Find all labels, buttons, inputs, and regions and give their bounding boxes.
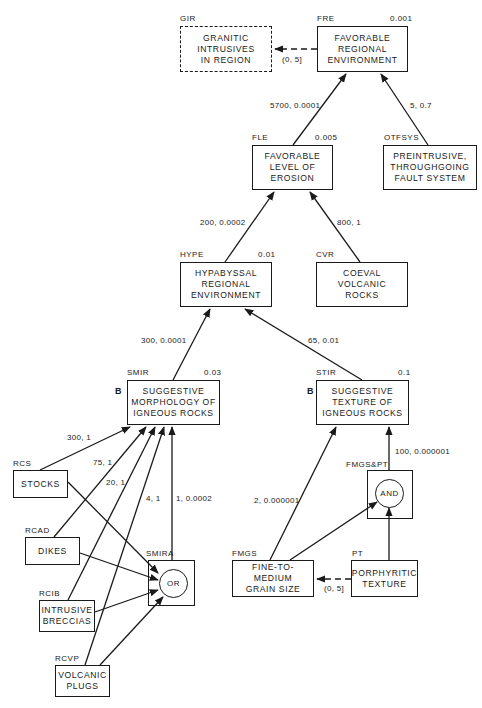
node-prior-hype: 0.01 [258, 250, 276, 259]
edge-label-fmgspt-stir: 100, 0.000001 [395, 447, 450, 456]
node-mark-stir: B [307, 386, 314, 396]
node-rcvp: VOLCANIC PLUGS [55, 665, 110, 697]
edge-label-rcs-smir: 300, 1 [67, 433, 91, 442]
node-prior-stir: 0.1 [398, 368, 411, 377]
edge-label-cvr-fle: 800, 1 [337, 218, 361, 227]
node-hype: HYPABYSSAL REGIONAL ENVIRONMENT [180, 262, 272, 307]
node-stir: SUGGESTIVE TEXTURE OF IGNEOUS ROCKS [316, 380, 409, 425]
node-fre: FAVORABLE REGIONAL ENVIRONMENT [317, 26, 408, 72]
node-id-otfsys: OTFSYS [384, 133, 419, 142]
edge-label-pt-fmgs: (0, 5] [324, 584, 344, 593]
node-cvr: COEVAL VOLCANIC ROCKS [316, 262, 408, 307]
node-id-smir: SMIR [127, 368, 149, 377]
node-otfsys: PREINTRUSIVE, THROUGHGOING FAULT SYSTEM [383, 145, 477, 190]
edge-fmgs-and [290, 502, 377, 560]
node-smir: SUGGESTIVE MORPHOLOGY OF IGNEOUS ROCKS [127, 380, 220, 425]
node-id-pt: PT [352, 549, 363, 558]
node-gir: GRANITIC INTRUSIVES IN REGION [180, 26, 272, 72]
node-fle: FAVORABLE LEVEL OF EROSION [252, 145, 333, 190]
and-gate: AND [375, 479, 404, 508]
node-prior-fle: 0.005 [315, 133, 338, 142]
node-id-rcad: RCAD [25, 526, 50, 535]
edge-label-smira-smir: 1, 0.0002 [176, 494, 212, 503]
node-id-stir: STIR [316, 368, 336, 377]
node-id-rcvp: RCVP [55, 654, 79, 663]
edge-label-fre-gir: (0, 5] [282, 55, 302, 64]
edge-label-rcad-smir: 75, 1 [93, 458, 112, 467]
node-id-rcib: RCIB [39, 589, 60, 598]
edge-label-otfsys-fre: 5, 0.7 [410, 101, 432, 110]
edge-rcs-or [68, 482, 158, 573]
node-id-hype: HYPE [180, 250, 204, 259]
node-id-smira: SMIRA [146, 549, 174, 558]
node-id-cvr: CVR [316, 250, 334, 259]
node-prior-smir: 0.03 [204, 368, 222, 377]
edge-label-smir-hype: 300, 0.0001 [141, 336, 187, 345]
node-id-fmgs: FMGS [232, 549, 257, 558]
edge-label-rcib-smir: 20, 1 [106, 478, 125, 487]
node-id-fre: FRE [317, 14, 335, 23]
node-fmgs: FINE-TO-MEDIUM GRAIN SIZE [232, 560, 314, 597]
node-rcs: STOCKS [13, 470, 68, 498]
edge-label-stir-hype: 65, 0.01 [308, 336, 339, 345]
node-id-gir: GIR [180, 14, 196, 23]
node-id-fle: FLE [252, 133, 268, 142]
node-id-fmgspt: FMGS&PT [346, 460, 388, 469]
node-mark-smir: B [115, 386, 122, 396]
edge-label-fmgs-stir: 2, 0.000001 [254, 496, 300, 505]
node-id-rcs: RCS [13, 459, 31, 468]
node-pt: PORPHYRITIC TEXTURE [351, 560, 418, 597]
node-rcib: INTRUSIVE BRECCIAS [39, 600, 95, 632]
edge-fmgs-stir [270, 427, 336, 560]
edge-label-hype-fle: 200, 0.0002 [200, 218, 246, 227]
edge-label-fle-fre: 5700, 0.0001 [270, 101, 320, 110]
node-prior-fre: 0.001 [390, 14, 413, 23]
edge-stir-hype [245, 309, 362, 380]
edge-label-rcvp-smir: 4, 1 [146, 494, 161, 503]
node-rcad: DIKES [25, 537, 80, 565]
or-gate: OR [159, 569, 188, 598]
